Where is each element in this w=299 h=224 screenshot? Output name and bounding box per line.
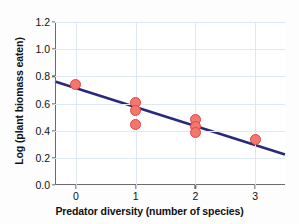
gridline-horizontal [55, 49, 285, 50]
y-tick-mark [52, 76, 56, 77]
y-tick-mark [52, 184, 56, 185]
data-point [130, 119, 141, 130]
x-tick-mark [254, 185, 255, 189]
y-tick-label: 0.8 [35, 70, 50, 82]
x-axis-title: Predator diversity (number of species) [0, 205, 299, 217]
data-point [250, 134, 261, 145]
gridline-horizontal [55, 131, 285, 132]
y-tick-mark [52, 130, 56, 131]
y-axis-title: Log (plant biomass eaten) [13, 16, 25, 186]
gridline-horizontal [55, 76, 285, 77]
y-tick-mark [52, 49, 56, 50]
x-tick-mark [75, 185, 76, 189]
y-tick-label: 0.2 [35, 152, 50, 164]
gridline-horizontal [55, 22, 285, 23]
y-tick-label: 1.2 [35, 16, 50, 28]
y-tick-mark [52, 103, 56, 104]
x-tick-label: 3 [252, 190, 258, 202]
x-tick-label: 2 [192, 190, 198, 202]
y-tick-label: 1.0 [35, 43, 50, 55]
x-tick-label: 0 [73, 190, 79, 202]
plot-area: 0.00.20.40.60.81.01.20123 [55, 22, 285, 185]
x-tick-mark [135, 185, 136, 189]
gridline-horizontal [55, 158, 285, 159]
x-tick-mark [195, 185, 196, 189]
y-tick-mark [52, 157, 56, 158]
y-tick-label: 0.4 [35, 125, 50, 137]
x-tick-label: 1 [133, 190, 139, 202]
x-axis-spine [55, 184, 285, 185]
gridline-vertical [76, 22, 77, 185]
data-point [70, 79, 81, 90]
scatter-plot-figure: Log (plant biomass eaten) 0.00.20.40.60.… [0, 0, 299, 224]
y-tick-label: 0.0 [35, 179, 50, 191]
gridline-vertical [255, 22, 256, 185]
y-tick-label: 0.6 [35, 98, 50, 110]
data-point [130, 105, 141, 116]
y-tick-mark [52, 21, 56, 22]
data-point [190, 127, 201, 138]
gridline-vertical [195, 22, 196, 185]
regression-line [55, 81, 285, 154]
gridline-horizontal [55, 104, 285, 105]
